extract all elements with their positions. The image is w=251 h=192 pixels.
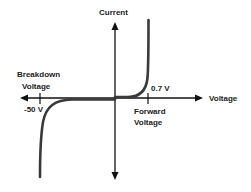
breakdown-label-line2: Voltage: [22, 82, 50, 92]
forward-label-line1: Forward: [134, 107, 166, 117]
x-axis-label: Voltage: [209, 94, 237, 104]
breakdown-value: -50 V: [24, 105, 43, 115]
forward-value: 0.7 V: [151, 84, 170, 94]
reverse-curve: [40, 100, 115, 178]
breakdown-label-line1: Breakdown: [17, 70, 60, 80]
forward-label-line2: Voltage: [134, 118, 162, 128]
forward-curve: [115, 20, 149, 97]
arrow-left-icon: [20, 95, 28, 102]
current-axis: [112, 22, 119, 180]
y-axis-label: Current: [99, 8, 128, 18]
arrow-right-icon: [195, 95, 203, 102]
diode-iv-diagram: Current Voltage Breakdown Voltage -50 V …: [0, 0, 251, 192]
arrow-down-icon: [112, 172, 119, 180]
arrow-up-icon: [112, 22, 119, 30]
